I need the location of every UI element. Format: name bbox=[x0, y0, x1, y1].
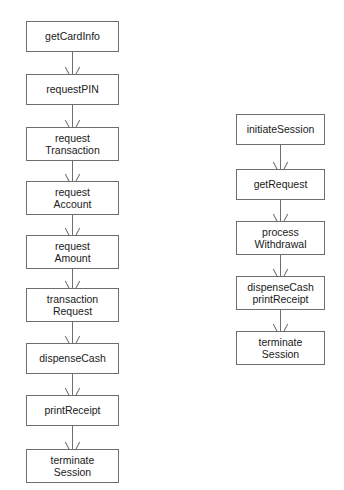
arrowhead-icon bbox=[68, 66, 77, 74]
flowchart-node[interactable]: getRequest bbox=[236, 169, 325, 200]
arrowhead-icon bbox=[276, 268, 285, 276]
flowchart-node-label: requestPIN bbox=[46, 83, 99, 96]
flowchart-node-label: request bbox=[55, 240, 90, 253]
arrowhead-icon bbox=[68, 119, 77, 127]
flowchart-node-label: dispenseCash bbox=[39, 352, 106, 365]
flow-arrow bbox=[72, 322, 73, 343]
arrowhead-icon bbox=[276, 213, 285, 221]
arrowhead-icon bbox=[68, 387, 77, 395]
flow-arrow bbox=[280, 145, 281, 169]
flow-arrow bbox=[72, 269, 73, 288]
flowchart-node-label: printReceipt bbox=[252, 293, 308, 306]
flowchart-node-label: request bbox=[55, 132, 90, 145]
flowchart-node-label: Session bbox=[54, 466, 91, 479]
flowchart-node-label: terminate bbox=[259, 336, 303, 349]
flowchart-node[interactable]: dispenseCashprintReceipt bbox=[236, 276, 325, 310]
flow-arrow bbox=[280, 255, 281, 276]
flowchart-node[interactable]: requestTransaction bbox=[26, 127, 119, 161]
flow-arrow bbox=[72, 105, 73, 127]
flowchart-node-label: initiateSession bbox=[247, 123, 315, 136]
flowchart-node-label: transaction bbox=[47, 293, 98, 306]
flowchart-node[interactable]: requestPIN bbox=[26, 74, 119, 105]
flowchart-node[interactable]: processWithdrawal bbox=[236, 221, 325, 255]
flowchart-node-label: getCardInfo bbox=[45, 30, 100, 43]
arrowhead-icon bbox=[68, 227, 77, 235]
flowchart-canvas: getCardInforequestPINrequestTransactionr… bbox=[0, 0, 344, 490]
flowchart-node[interactable]: terminateSession bbox=[26, 449, 119, 483]
flow-arrow bbox=[280, 310, 281, 331]
flowchart-node-label: Amount bbox=[54, 252, 90, 265]
flowchart-node-label: Withdrawal bbox=[255, 238, 307, 251]
flowchart-node[interactable]: terminateSession bbox=[236, 331, 325, 365]
arrowhead-icon bbox=[68, 441, 77, 449]
flowchart-node-label: Session bbox=[262, 348, 299, 361]
flowchart-node[interactable]: transactionRequest bbox=[26, 288, 119, 322]
arrowhead-icon bbox=[68, 173, 77, 181]
flow-arrow bbox=[280, 200, 281, 221]
flow-arrow bbox=[72, 52, 73, 74]
flow-arrow bbox=[72, 161, 73, 181]
flowchart-node-label: process bbox=[262, 226, 299, 239]
arrowhead-icon bbox=[68, 335, 77, 343]
flowchart-node-label: getRequest bbox=[254, 178, 308, 191]
arrowhead-icon bbox=[68, 280, 77, 288]
flowchart-node[interactable]: requestAccount bbox=[26, 181, 119, 215]
flowchart-node[interactable]: requestAmount bbox=[26, 235, 119, 269]
flowchart-column-right: initiateSessiongetRequestprocessWithdraw… bbox=[236, 114, 325, 365]
flowchart-node-label: printReceipt bbox=[44, 404, 100, 417]
flowchart-column-left: getCardInforequestPINrequestTransactionr… bbox=[26, 21, 119, 483]
flowchart-node-label: dispenseCash bbox=[247, 281, 314, 294]
flowchart-node[interactable]: getCardInfo bbox=[26, 21, 119, 52]
arrowhead-icon bbox=[276, 161, 285, 169]
flow-arrow bbox=[72, 374, 73, 395]
flowchart-node-label: terminate bbox=[51, 454, 95, 467]
flowchart-node-label: Transaction bbox=[45, 144, 99, 157]
arrowhead-icon bbox=[276, 323, 285, 331]
flow-arrow bbox=[72, 215, 73, 235]
flowchart-node-label: Account bbox=[54, 198, 92, 211]
flowchart-node-label: Request bbox=[53, 305, 92, 318]
flowchart-node[interactable]: dispenseCash bbox=[26, 343, 119, 374]
flowchart-node-label: request bbox=[55, 186, 90, 199]
flowchart-node[interactable]: initiateSession bbox=[236, 114, 325, 145]
flowchart-node[interactable]: printReceipt bbox=[26, 395, 119, 426]
flow-arrow bbox=[72, 426, 73, 449]
